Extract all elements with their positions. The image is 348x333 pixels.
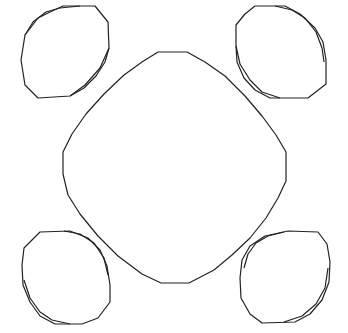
ellipse-bottom-left-inner-2 bbox=[24, 280, 70, 324]
ellipse-bottom-right-outer bbox=[240, 231, 330, 323]
ellipse-top-right-outer bbox=[236, 6, 326, 98]
ellipse-top-left-inner-2 bbox=[70, 48, 109, 96]
ellipse-bottom-left-outer bbox=[22, 231, 110, 324]
shape-layer bbox=[21, 6, 330, 324]
ellipse-top-left-outer bbox=[21, 6, 109, 98]
diagram-canvas bbox=[0, 0, 348, 333]
ellipse-bottom-right-inner-2 bbox=[284, 268, 328, 322]
ellipse-top-right-inner-2 bbox=[236, 46, 280, 98]
ellipse-top-left-inner bbox=[25, 6, 80, 35]
ellipse-top-right-inner bbox=[275, 6, 324, 62]
